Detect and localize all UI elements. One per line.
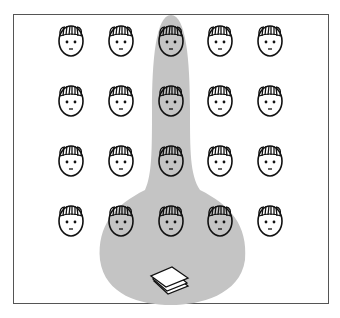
highlight-region [100, 15, 246, 305]
diagram-canvas [0, 0, 340, 318]
